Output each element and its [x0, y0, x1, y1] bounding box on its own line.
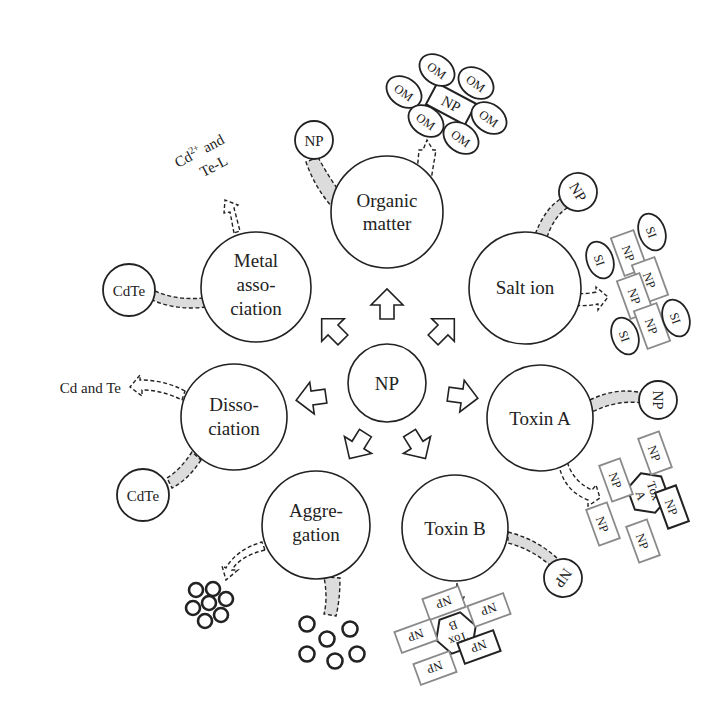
salt-ion-complex: NP NP NP NP SI SI SI SI	[581, 210, 694, 359]
aggregation-input-tube	[324, 577, 340, 616]
salt-ion-group: NP Salt ion NP NP NP NP SI SI SI SI	[469, 166, 695, 358]
svg-text:Metal: Metal	[234, 250, 278, 271]
dissociation-group: CdTe Cd and Te Disso- ciation	[60, 364, 287, 521]
svg-text:CdTe: CdTe	[127, 488, 160, 504]
svg-text:ciation: ciation	[208, 418, 260, 439]
toxin-b-group: NP Toxin B Tox B NP NP NP NP NP	[394, 475, 589, 685]
arrow-upleft-icon	[310, 307, 354, 351]
dissociation-output-arrow	[130, 375, 185, 400]
svg-text:gation: gation	[292, 524, 340, 545]
aggregated-particles-cluster	[186, 582, 233, 628]
svg-text:ciation: ciation	[230, 298, 282, 319]
svg-text:Disso-: Disso-	[209, 394, 259, 415]
arrow-downleft-icon	[336, 425, 379, 467]
metal-input-cdte: CdTe	[103, 264, 155, 316]
svg-text:asso-: asso-	[236, 274, 275, 295]
arrow-up-icon	[371, 289, 403, 319]
metal-association-group: CdTe Cd2+ and Te-L Metal asso- ciation	[103, 129, 311, 342]
dissociation-product: Cd and Te	[60, 380, 122, 396]
arrow-left-icon	[294, 380, 328, 416]
svg-text:Toxin A: Toxin A	[509, 408, 571, 429]
toxin-a-group: NP Toxin A Tox A NP NP NP NP NP	[487, 365, 689, 563]
toxin-b-complex: Tox B NP NP NP NP NP	[394, 586, 510, 685]
dissociation-input-tube	[167, 452, 201, 488]
organic-matter-group: NP Organic matter NP OM OM OM OM OM OM	[295, 48, 513, 268]
aggregation-output-arrow	[222, 542, 265, 580]
aggregation-group: Aggre- gation	[186, 471, 370, 669]
dispersed-particles	[300, 617, 365, 669]
svg-text:Salt ion: Salt ion	[496, 277, 555, 298]
svg-text:Te-L: Te-L	[197, 152, 230, 180]
arrow-right-icon	[446, 378, 480, 414]
dissociation-input-cdte: CdTe	[117, 469, 169, 521]
metal-output-arrow	[224, 200, 240, 233]
toxin-a-complex: Tox A NP NP NP NP NP	[586, 431, 689, 562]
np-fate-diagram: NP NP Organic matter NP OM OM OM OM OM	[0, 0, 725, 719]
center-np-label: NP	[375, 373, 399, 394]
center-np-node: NP	[348, 344, 426, 422]
metal-association-product: Cd2+ and Te-L	[171, 129, 237, 188]
arrow-upright-icon	[422, 307, 466, 351]
arrow-downright-icon	[396, 425, 439, 467]
svg-text:matter: matter	[363, 213, 412, 234]
svg-text:Aggre-: Aggre-	[289, 500, 343, 521]
svg-text:NP: NP	[650, 390, 666, 409]
svg-text:CdTe: CdTe	[113, 283, 146, 299]
svg-text:Organic: Organic	[357, 190, 418, 211]
svg-text:Toxin B: Toxin B	[424, 518, 485, 539]
svg-text:NP: NP	[304, 133, 323, 149]
